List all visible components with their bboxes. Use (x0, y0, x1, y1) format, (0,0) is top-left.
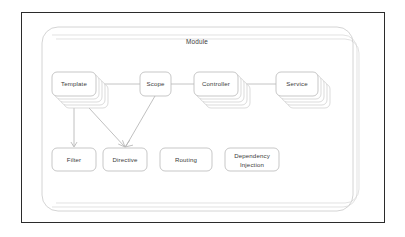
dependency-injection-label-line-1: Dependency (234, 152, 271, 159)
node-routing[interactable]: Routing (160, 148, 212, 171)
diagram-root: Module Template (0, 0, 405, 237)
routing-label: Routing (175, 156, 197, 163)
diagram-canvas: Module Template (0, 0, 405, 237)
scope-label: Scope (146, 80, 164, 87)
node-template[interactable]: Template (52, 72, 108, 108)
filter-label: Filter (67, 156, 81, 163)
module-container-copy-1 (52, 35, 357, 207)
module-container (42, 27, 353, 211)
dependency-injection-label-line-2: Injection (240, 161, 264, 168)
node-dependency-injection[interactable]: Dependency Injection (225, 148, 279, 171)
arrow-scope-directive (125, 96, 155, 147)
module-container-stack (42, 27, 359, 211)
directive-label: Directive (112, 156, 138, 163)
template-label: Template (61, 80, 87, 87)
module-title: Module (186, 38, 208, 45)
node-service[interactable]: Service (276, 72, 330, 108)
node-filter[interactable]: Filter (52, 148, 96, 171)
controller-label: Controller (202, 80, 230, 87)
node-directive[interactable]: Directive (103, 148, 147, 171)
service-label: Service (286, 80, 308, 87)
node-controller[interactable]: Controller (194, 72, 250, 108)
node-scope[interactable]: Scope (140, 72, 171, 96)
